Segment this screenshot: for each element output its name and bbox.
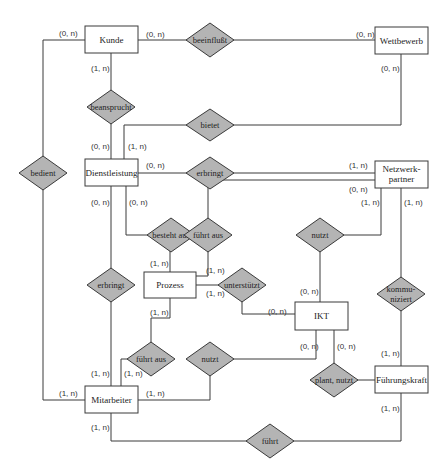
cardinality-label: (1, n) bbox=[59, 389, 78, 398]
relationship-label: führt aus bbox=[136, 354, 166, 364]
cardinality-label: (1, n) bbox=[381, 349, 400, 358]
entity-kunde[interactable]: Kunde bbox=[85, 26, 138, 53]
relationship-fuehrt-aus-netzwerkpartner[interactable]: führt aus bbox=[184, 218, 232, 252]
relationship-erbringt-mitarbeiter[interactable]: erbringt bbox=[87, 268, 135, 302]
relationship-bietet[interactable]: bietet bbox=[186, 109, 234, 141]
relationship-label: erbringt bbox=[98, 280, 126, 290]
entity-label: Mitarbeiter bbox=[91, 395, 131, 405]
entity-label: IKT bbox=[314, 311, 329, 321]
relationship-unterstuetzt[interactable]: unterstützt bbox=[218, 268, 266, 302]
cardinality-label: (1, n) bbox=[128, 142, 147, 151]
relationship-label: erbringt bbox=[197, 168, 225, 178]
entity-prozess[interactable]: Prozess bbox=[144, 272, 196, 298]
cardinality-label: (1, n) bbox=[381, 404, 400, 413]
cardinality-label: (0, n) bbox=[91, 142, 110, 151]
cardinality-label: (1, n) bbox=[206, 289, 225, 298]
entity-label-line1: Netzwerk- bbox=[383, 164, 421, 174]
relationship-fuehrt[interactable]: führt bbox=[246, 424, 294, 458]
cardinality-label: (1, n) bbox=[91, 64, 110, 73]
cardinality-label: (0, n) bbox=[59, 29, 78, 38]
relationship-plant-nutzt[interactable]: plant, nutzt bbox=[310, 363, 358, 397]
entity-label: Dienstleistung bbox=[86, 168, 138, 178]
cardinality-label: (0, n) bbox=[146, 30, 165, 39]
cardinality-label: (0, n) bbox=[337, 342, 356, 351]
relationship-label: nutzt bbox=[312, 230, 330, 240]
relationship-label: führt aus bbox=[193, 230, 223, 240]
relationship-label: führt bbox=[262, 436, 279, 446]
relationship-label: plant, nutzt bbox=[315, 375, 354, 385]
entity-label: Prozess bbox=[156, 280, 184, 290]
entity-label-line2: partner bbox=[389, 174, 414, 184]
cardinality-label: (1, n) bbox=[404, 198, 423, 207]
er-diagram: beeinflußt beansprucht bietet bedient er… bbox=[0, 0, 448, 471]
cardinality-label: (1, n) bbox=[124, 369, 143, 378]
cardinality-label: (1, n) bbox=[91, 369, 110, 378]
cardinality-label: (1, n) bbox=[206, 266, 225, 275]
relationship-label: nutzt bbox=[202, 354, 220, 364]
relationship-label-line2: niziert bbox=[390, 294, 412, 304]
cardinality-label: (0, n) bbox=[146, 161, 165, 170]
relationship-nutzt-mitarbeiter[interactable]: nutzt bbox=[186, 342, 234, 376]
cardinality-label: (0, n) bbox=[91, 198, 110, 207]
entity-mitarbeiter[interactable]: Mitarbeiter bbox=[85, 386, 138, 413]
cardinality-label: (1, n) bbox=[150, 308, 169, 317]
relationship-label: beeinflußt bbox=[193, 35, 228, 45]
relationship-beeinflusst[interactable]: beeinflußt bbox=[186, 23, 234, 57]
entity-ikt[interactable]: IKT bbox=[295, 302, 348, 330]
cardinality-label: (0, n) bbox=[381, 64, 400, 73]
relationship-kommuniziert[interactable]: kommu- niziert bbox=[377, 277, 425, 311]
relationship-label: unterstützt bbox=[224, 280, 261, 290]
cardinalities: (0, n) (0, n) (0, n) (1, n) (0, n) (0, n… bbox=[59, 29, 423, 432]
relationship-beansprucht[interactable]: beansprucht bbox=[87, 90, 135, 124]
cardinality-label: (1, n) bbox=[91, 423, 110, 432]
cardinality-label: (0, n) bbox=[300, 342, 319, 351]
entity-fuehrungskraft[interactable]: Führungskraft bbox=[375, 366, 428, 393]
cardinality-label: (0, n) bbox=[349, 185, 368, 194]
relationship-label-line1: kommu- bbox=[387, 284, 416, 294]
entity-label: Führungskraft bbox=[376, 375, 427, 385]
entity-wettbewerb[interactable]: Wettbewerb bbox=[375, 27, 428, 54]
cardinality-label: (1, n) bbox=[361, 198, 380, 207]
relationship-erbringt-netzwerkpartner[interactable]: erbringt bbox=[186, 157, 234, 189]
relationships: beeinflußt beansprucht bietet bedient er… bbox=[19, 23, 425, 458]
edge-wettbewerb-bietet-dienstleistung bbox=[124, 54, 401, 159]
cardinality-label: (0, n) bbox=[129, 198, 148, 207]
entity-label: Wettbewerb bbox=[380, 36, 424, 46]
relationship-label: bedient bbox=[30, 168, 56, 178]
edge-kunde-bedient-mitarbeiter bbox=[43, 40, 85, 400]
cardinality-label: (0, n) bbox=[268, 307, 287, 316]
cardinality-label: (0, n) bbox=[356, 30, 375, 39]
cardinality-label: (1, n) bbox=[349, 161, 368, 170]
entity-label: Kunde bbox=[100, 35, 124, 45]
entity-netzwerkpartner[interactable]: Netzwerk- partner bbox=[375, 161, 428, 188]
entity-dienstleistung[interactable]: Dienstleistung bbox=[85, 159, 138, 186]
cardinality-label: (1, n) bbox=[146, 389, 165, 398]
relationship-label: bietet bbox=[201, 120, 221, 130]
cardinality-label: (0, n) bbox=[300, 287, 319, 296]
relationship-nutzt-netzwerkpartner[interactable]: nutzt bbox=[296, 218, 344, 252]
relationship-label: beansprucht bbox=[90, 102, 132, 112]
cardinality-label: (1, n) bbox=[150, 259, 169, 268]
relationship-bedient[interactable]: bedient bbox=[19, 156, 67, 190]
